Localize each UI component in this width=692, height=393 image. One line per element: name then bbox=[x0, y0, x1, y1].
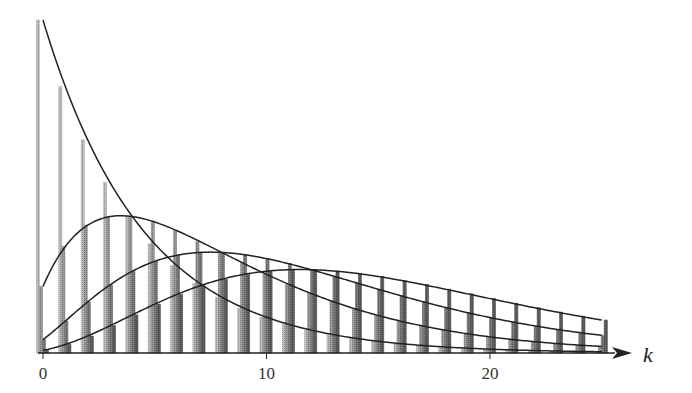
bar-texture bbox=[403, 280, 406, 353]
bar-texture bbox=[470, 294, 473, 353]
bar-texture bbox=[68, 345, 71, 353]
bar-texture bbox=[358, 273, 361, 353]
x-tick-label: 0 bbox=[39, 364, 48, 383]
bar-texture bbox=[180, 294, 183, 353]
bar-texture bbox=[515, 303, 518, 353]
bar-texture bbox=[90, 336, 93, 353]
bar-series-group bbox=[36, 20, 607, 353]
bar-texture bbox=[157, 304, 160, 353]
bar-texture bbox=[269, 271, 272, 353]
bar-texture bbox=[604, 320, 607, 353]
bar-texture bbox=[247, 274, 250, 353]
bar-texture bbox=[559, 312, 562, 353]
bar-texture bbox=[224, 279, 227, 353]
bar-texture bbox=[135, 315, 138, 353]
bar-texture bbox=[336, 271, 339, 353]
x-tick-label: 10 bbox=[258, 364, 275, 383]
bar-texture bbox=[537, 308, 540, 353]
bar-texture bbox=[291, 270, 294, 353]
x-tick-label: 20 bbox=[482, 364, 499, 383]
bar-texture bbox=[202, 286, 205, 353]
bar-texture bbox=[582, 316, 585, 353]
bar-texture bbox=[425, 285, 428, 353]
bar-texture bbox=[112, 326, 115, 353]
x-axis-label: k bbox=[643, 342, 654, 367]
bar-texture bbox=[314, 270, 317, 353]
bar-texture bbox=[448, 289, 451, 353]
chart: 01020 k bbox=[0, 0, 692, 393]
bar-texture bbox=[492, 299, 495, 353]
